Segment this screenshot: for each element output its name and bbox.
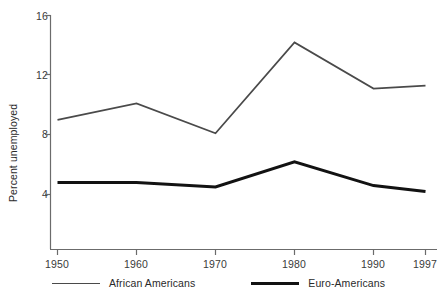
x-tick-marks [58,250,426,256]
legend-label-african-americans: African Americans [109,277,195,289]
plot-area [0,0,443,296]
y-tick-marks [45,16,51,195]
series-line-african-americans [58,42,426,133]
legend-label-euro-americans: Euro-Americans [308,277,385,289]
legend-entry-euro-americans: Euro-Americans [251,277,385,289]
series-line-euro-americans [58,162,426,192]
unemployment-line-chart: Percent unemployed 16 12 8 4 1950 1960 1… [0,0,443,296]
legend-swatch-icon-african-americans [52,283,100,284]
chart-legend: African Americans Euro-Americans [0,272,443,294]
legend-swatch-icon-euro-americans [251,282,299,285]
legend-entry-african-americans: African Americans [52,277,195,289]
